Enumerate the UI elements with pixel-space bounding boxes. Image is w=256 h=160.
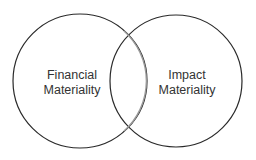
financial-label-line2: Materiality <box>44 83 102 97</box>
venn-diagram: Financial Materiality Impact Materiality <box>0 0 256 160</box>
impact-label-line2: Materiality <box>159 83 217 97</box>
financial-label-line1: Financial <box>47 68 97 82</box>
impact-label-line1: Impact <box>168 68 206 82</box>
overlap-arc <box>124 31 146 131</box>
